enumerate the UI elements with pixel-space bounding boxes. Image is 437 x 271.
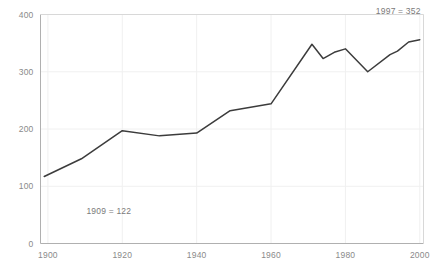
x-tick-label-1900: 1900	[38, 250, 58, 260]
x-tick-label-1920: 1920	[112, 250, 132, 260]
chart-background	[0, 0, 437, 271]
y-tick-label-300: 300	[19, 67, 34, 77]
x-tick-label-1960: 1960	[261, 250, 281, 260]
x-tick-label-2000: 2000	[410, 250, 430, 260]
line-chart: 0100200300400 190019201940196019802000 1…	[0, 0, 437, 271]
y-tick-label-400: 400	[19, 10, 34, 20]
x-tick-label-1980: 1980	[336, 250, 356, 260]
y-tick-label-100: 100	[19, 181, 34, 191]
annotation-1997: 1997 = 352	[376, 6, 421, 16]
y-tick-label-0: 0	[29, 239, 34, 249]
chart-container: 0100200300400 190019201940196019802000 1…	[0, 0, 437, 271]
x-tick-label-1940: 1940	[187, 250, 207, 260]
annotation-1909: 1909 = 122	[86, 206, 131, 216]
y-tick-label-200: 200	[19, 124, 34, 134]
